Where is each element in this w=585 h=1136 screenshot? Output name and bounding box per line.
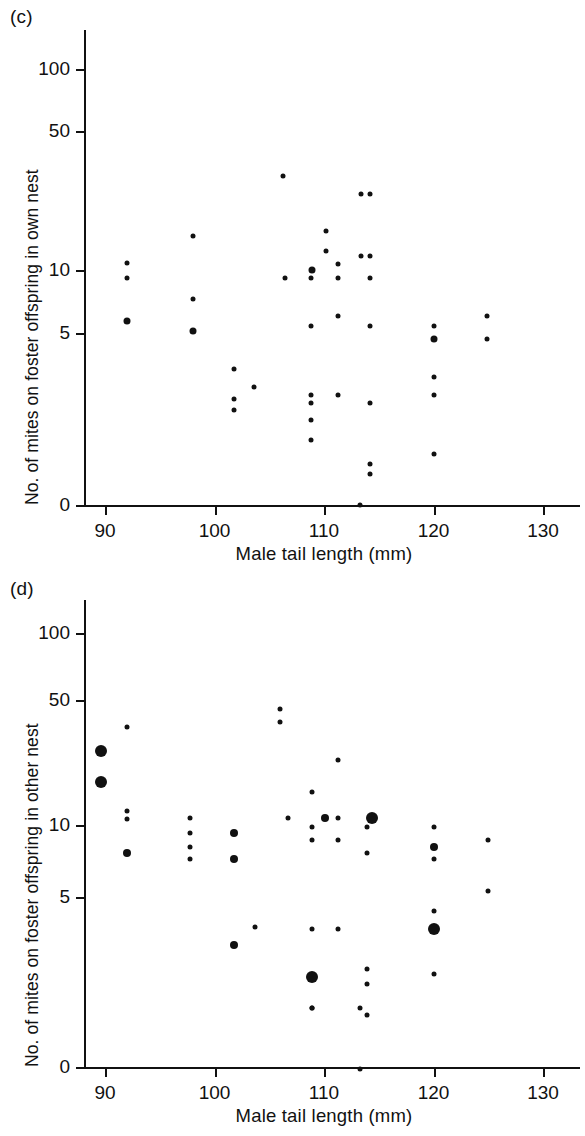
- figure-page: (c) 10050105090100110120130Male tail len…: [0, 0, 585, 1136]
- data-point: [309, 1006, 314, 1011]
- data-point: [428, 923, 440, 935]
- data-point: [308, 401, 313, 406]
- x-tick: [215, 1069, 217, 1077]
- data-point: [367, 276, 372, 281]
- data-point: [358, 1006, 363, 1011]
- data-point: [309, 789, 314, 794]
- data-point: [190, 297, 195, 302]
- data-point: [232, 408, 237, 413]
- data-point: [123, 318, 130, 325]
- data-point: [364, 824, 369, 829]
- y-tick-label: 100: [16, 58, 70, 80]
- x-tick: [434, 507, 436, 515]
- y-axis-title: No. of mites on foster offspring in othe…: [22, 723, 43, 1067]
- data-point: [308, 437, 313, 442]
- data-point: [367, 324, 372, 329]
- data-point: [253, 925, 258, 930]
- x-tick: [543, 507, 545, 515]
- data-point: [358, 1067, 363, 1072]
- y-tick: [76, 505, 84, 507]
- data-point: [324, 248, 329, 253]
- y-tick: [76, 333, 84, 335]
- data-point: [366, 812, 378, 824]
- y-tick: [76, 700, 84, 702]
- data-point: [336, 276, 341, 281]
- data-point: [364, 966, 369, 971]
- data-point: [188, 830, 193, 835]
- y-axis-line: [84, 600, 86, 1067]
- x-tick: [434, 1069, 436, 1077]
- x-axis-title: Male tail length (mm): [236, 1105, 413, 1127]
- x-tick: [543, 1069, 545, 1077]
- x-tick: [324, 507, 326, 515]
- data-point: [367, 472, 372, 477]
- data-point: [190, 234, 195, 239]
- data-point: [336, 927, 341, 932]
- data-point: [321, 814, 329, 822]
- x-axis-line: [84, 505, 580, 507]
- data-point: [124, 809, 129, 814]
- data-point: [336, 758, 341, 763]
- data-point: [336, 261, 341, 266]
- data-point: [486, 838, 491, 843]
- data-point: [485, 314, 490, 319]
- data-point: [364, 1013, 369, 1018]
- x-tick-label: 90: [94, 520, 115, 542]
- data-point: [367, 192, 372, 197]
- x-tick-label: 130: [527, 520, 559, 542]
- x-tick: [105, 507, 107, 515]
- x-tick-label: 110: [309, 1082, 339, 1104]
- data-point: [232, 366, 237, 371]
- data-point: [431, 393, 436, 398]
- y-axis-title: No. of mites on foster offspring in own …: [22, 169, 43, 505]
- data-point: [367, 461, 372, 466]
- data-point: [430, 335, 437, 342]
- data-point: [364, 851, 369, 856]
- data-point: [336, 816, 341, 821]
- panel-d: (d) 10050105090100110120130Male tail len…: [0, 572, 585, 1136]
- data-point: [431, 972, 436, 977]
- x-tick: [215, 507, 217, 515]
- data-point: [188, 816, 193, 821]
- data-point: [123, 849, 131, 857]
- data-point: [189, 327, 196, 334]
- panel-c: (c) 10050105090100110120130Male tail len…: [0, 0, 585, 570]
- data-point: [278, 719, 283, 724]
- data-point: [336, 393, 341, 398]
- data-point: [431, 825, 436, 830]
- data-point: [431, 374, 436, 379]
- y-axis-line: [84, 30, 86, 505]
- x-axis-title: Male tail length (mm): [236, 543, 413, 565]
- data-point: [359, 253, 364, 258]
- data-point: [308, 324, 313, 329]
- data-point: [324, 229, 329, 234]
- data-point: [230, 941, 238, 949]
- x-tick-label: 120: [418, 1082, 450, 1104]
- y-tick-label: 50: [16, 120, 70, 142]
- x-tick-label: 120: [418, 520, 450, 542]
- data-point: [230, 829, 238, 837]
- data-point: [281, 173, 286, 178]
- data-point: [309, 838, 314, 843]
- data-point: [309, 927, 314, 932]
- y-tick: [76, 897, 84, 899]
- x-tick-label: 130: [527, 1082, 559, 1104]
- data-point: [431, 908, 436, 913]
- data-point: [124, 260, 129, 265]
- data-point: [367, 253, 372, 258]
- data-point: [306, 971, 318, 983]
- x-tick: [105, 1069, 107, 1077]
- y-tick: [76, 1067, 84, 1069]
- y-tick: [76, 131, 84, 133]
- x-tick-label: 100: [199, 520, 231, 542]
- data-point: [308, 418, 313, 423]
- data-point: [485, 336, 490, 341]
- data-point: [431, 856, 436, 861]
- data-point: [336, 314, 341, 319]
- panel-c-plot-area: 10050105090100110120130Male tail length …: [0, 0, 585, 570]
- y-tick: [76, 633, 84, 635]
- data-point: [188, 856, 193, 861]
- y-tick: [76, 825, 84, 827]
- data-point: [251, 384, 256, 389]
- data-point: [232, 397, 237, 402]
